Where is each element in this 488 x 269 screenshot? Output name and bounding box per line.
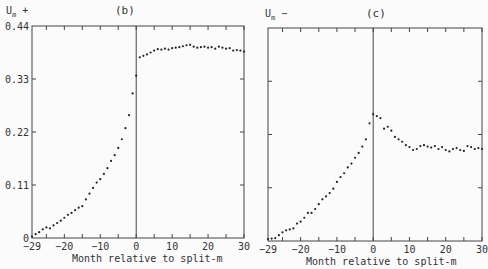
panel-c: −29−20−100102030 Um − (c) Month relative… bbox=[259, 7, 488, 267]
data-point bbox=[365, 138, 367, 140]
data-point bbox=[408, 146, 410, 148]
x-tick-label: −20 bbox=[55, 241, 73, 252]
data-point bbox=[271, 237, 273, 239]
data-point bbox=[390, 130, 392, 132]
data-point bbox=[196, 47, 198, 49]
data-point bbox=[229, 47, 231, 49]
x-tick-label: −29 bbox=[259, 244, 277, 255]
data-point bbox=[52, 224, 54, 226]
data-point bbox=[67, 214, 69, 216]
data-point bbox=[106, 167, 108, 169]
y-tick-label: 0.11 bbox=[5, 180, 29, 191]
data-point bbox=[239, 49, 241, 51]
data-point bbox=[437, 148, 439, 150]
data-point bbox=[430, 146, 432, 148]
y-tick-label: 0.44 bbox=[5, 21, 29, 32]
data-point bbox=[157, 48, 159, 50]
data-point bbox=[178, 46, 180, 48]
data-point bbox=[211, 46, 213, 48]
data-point bbox=[463, 150, 465, 152]
plot-frame-c bbox=[268, 28, 482, 241]
data-point bbox=[99, 178, 101, 180]
data-point bbox=[466, 145, 468, 147]
data-point bbox=[139, 56, 141, 58]
data-point bbox=[38, 231, 40, 233]
data-point bbox=[96, 181, 98, 183]
data-point bbox=[278, 234, 280, 236]
x-tick-label: −20 bbox=[292, 244, 310, 255]
data-point bbox=[117, 147, 119, 149]
plot-frame-b bbox=[32, 26, 244, 238]
x-tick-label: 10 bbox=[403, 244, 415, 255]
data-point bbox=[470, 146, 472, 148]
data-point bbox=[153, 49, 155, 51]
data-point bbox=[423, 144, 425, 146]
x-tick-label: 0 bbox=[133, 241, 139, 252]
data-point bbox=[459, 149, 461, 151]
data-point bbox=[114, 154, 116, 156]
data-point bbox=[329, 192, 331, 194]
data-point bbox=[474, 148, 476, 150]
axis-ticks-c: −29−20−100102030 bbox=[259, 28, 488, 255]
data-point bbox=[314, 208, 316, 210]
data-point bbox=[412, 149, 414, 151]
x-tick-label: 20 bbox=[440, 244, 452, 255]
data-point bbox=[339, 176, 341, 178]
data-point bbox=[300, 221, 302, 223]
data-point bbox=[160, 49, 162, 51]
data-point bbox=[387, 126, 389, 128]
data-point bbox=[128, 114, 130, 116]
data-point bbox=[63, 217, 65, 219]
data-point bbox=[92, 187, 94, 189]
data-point bbox=[372, 113, 374, 115]
data-point bbox=[343, 172, 345, 174]
data-point bbox=[70, 212, 72, 214]
data-point bbox=[452, 148, 454, 150]
data-point bbox=[167, 49, 169, 51]
data-point bbox=[49, 227, 51, 229]
title-c: (c) bbox=[366, 7, 386, 20]
data-point bbox=[416, 148, 418, 150]
data-point bbox=[189, 44, 191, 46]
y-tick-label: 0.33 bbox=[5, 74, 29, 85]
data-points-c bbox=[267, 113, 483, 240]
data-point bbox=[200, 46, 202, 48]
data-point bbox=[376, 115, 378, 117]
ylabel-c: Um − bbox=[265, 8, 287, 22]
data-point bbox=[124, 127, 126, 129]
title-b: (b) bbox=[115, 4, 135, 17]
data-point bbox=[321, 198, 323, 200]
data-point bbox=[354, 157, 356, 159]
data-point bbox=[171, 47, 173, 49]
data-point bbox=[203, 46, 205, 48]
figure: −29−20−10010203000.110.220.330.44 Um + (… bbox=[0, 0, 488, 269]
ylabel-b: Um + bbox=[6, 5, 28, 19]
x-tick-label: 10 bbox=[166, 241, 178, 252]
data-point bbox=[281, 231, 283, 233]
data-point bbox=[74, 209, 76, 211]
data-point bbox=[434, 145, 436, 147]
xlabel-c: Month relative to split-m bbox=[306, 256, 457, 267]
data-point bbox=[31, 235, 33, 237]
data-point bbox=[401, 141, 403, 143]
data-point bbox=[232, 49, 234, 51]
data-point bbox=[149, 51, 151, 53]
data-point bbox=[445, 149, 447, 151]
data-point bbox=[383, 128, 385, 130]
data-point bbox=[292, 227, 294, 229]
data-point bbox=[135, 75, 137, 77]
data-point bbox=[34, 233, 36, 235]
x-tick-label: 30 bbox=[238, 241, 250, 252]
data-point bbox=[193, 46, 195, 48]
data-point bbox=[350, 162, 352, 164]
data-point bbox=[441, 146, 443, 148]
data-point bbox=[289, 228, 291, 230]
data-point bbox=[207, 47, 209, 49]
data-point bbox=[307, 212, 309, 214]
data-point bbox=[448, 150, 450, 152]
data-point bbox=[164, 48, 166, 50]
data-point bbox=[397, 138, 399, 140]
data-point bbox=[182, 45, 184, 47]
data-point bbox=[426, 146, 428, 148]
data-point bbox=[310, 212, 312, 214]
